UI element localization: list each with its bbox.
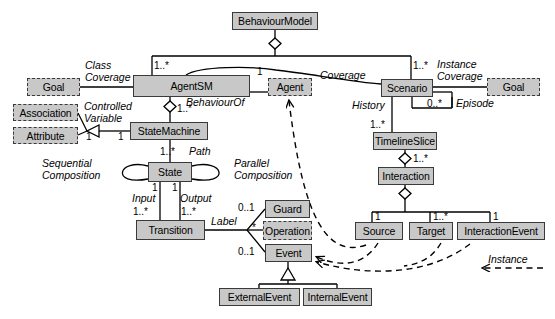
multiplicity-value: 1 — [257, 66, 263, 77]
multiplicity-value: 1..* — [160, 146, 175, 157]
class-box-timelineslice[interactable]: TimelineSlice — [373, 132, 437, 150]
class-label: InternalEvent — [308, 291, 368, 303]
edge-label-episode: Episode — [456, 98, 494, 110]
class-label: Source — [363, 225, 395, 237]
edge-label-line1: Parallel — [234, 158, 292, 170]
class-label: Operation — [265, 225, 310, 237]
multiplicity-statemachine-one: 1 — [118, 131, 124, 142]
class-box-behaviourmodel[interactable]: BehaviourModel — [232, 12, 318, 30]
edge-label-sequential-composition: Sequential Composition — [42, 158, 100, 181]
class-label: Goal — [43, 81, 65, 93]
edge-label-line1: Label — [211, 215, 237, 227]
class-box-transition[interactable]: Transition — [136, 220, 205, 240]
edge-label-line1: History — [352, 99, 385, 111]
class-box-source[interactable]: Source — [355, 222, 403, 240]
class-box-externalevent[interactable]: ExternalEvent — [219, 288, 300, 306]
class-box-interactionevent[interactable]: InteractionEvent — [457, 222, 545, 240]
multiplicity-guard: 0..1 — [238, 202, 255, 213]
class-label: Interaction — [382, 170, 429, 182]
edge-label-parallel-composition: Parallel Composition — [234, 158, 292, 181]
edge-label-label: Label — [211, 216, 237, 228]
class-label: TimelineSlice — [375, 135, 435, 147]
multiplicity-input: 1..* — [133, 206, 148, 217]
class-box-agent[interactable]: Agent — [268, 78, 312, 96]
class-label: Scenario — [387, 82, 427, 94]
edge-label-line1: Episode — [456, 97, 494, 109]
edge-label-path: Path — [189, 146, 211, 158]
class-box-scenario[interactable]: Scenario — [381, 79, 433, 97]
multiplicity-value: 1..* — [370, 119, 385, 130]
edge-label-output: Output — [180, 193, 212, 205]
edge-label-line1: Coverage — [320, 69, 366, 81]
multiplicity-value: 1..* — [413, 153, 428, 164]
multiplicity-value: 1..* — [433, 211, 448, 222]
multiplicity-state-input: 1 — [152, 182, 158, 193]
class-label: Transition — [148, 224, 192, 236]
edge-label-line1: Controlled — [84, 101, 132, 113]
class-label: Association — [19, 107, 71, 119]
legend-label-instance: Instance — [488, 254, 528, 266]
edge-label-behaviourof: BehaviourOf — [186, 97, 244, 109]
multiplicity-history: 1..* — [370, 119, 385, 130]
edge-label-line1: Class — [85, 60, 131, 72]
edge-label-line1: Sequential — [42, 158, 100, 170]
multiplicity-value: 1 — [375, 211, 381, 222]
multiplicity-association-one: 1 — [86, 131, 92, 142]
edge-label-controlled-variable: Controlled Variable — [84, 101, 132, 124]
class-label: Target — [417, 225, 445, 237]
multiplicity-value: 0..1 — [238, 246, 255, 257]
multiplicity-operation: * — [252, 222, 256, 233]
multiplicity-output: 1..* — [181, 206, 196, 217]
multiplicity-source: 1 — [375, 211, 381, 222]
edge-label-line1: Instance — [437, 59, 483, 71]
class-label: Goal — [503, 81, 525, 93]
class-box-statemachine[interactable]: StateMachine — [130, 122, 208, 140]
edge-label-line1: Input — [132, 192, 155, 204]
edge-label-line2: Composition — [234, 170, 292, 182]
multiplicity-value: 1 — [493, 211, 499, 222]
class-box-guard[interactable]: Guard — [265, 200, 310, 218]
legend-text: Instance — [488, 253, 528, 265]
class-box-association[interactable]: Association — [13, 104, 78, 121]
class-label: StateMachine — [138, 125, 200, 137]
class-box-goal-left[interactable]: Goal — [27, 78, 80, 96]
class-label: Agent — [277, 81, 304, 93]
class-box-event[interactable]: Event — [265, 244, 312, 262]
multiplicity-value: * — [252, 222, 256, 233]
multiplicity-state-output: 1 — [172, 182, 178, 193]
multiplicity-agent-left: 1 — [257, 66, 263, 77]
class-box-state[interactable]: State — [148, 162, 192, 182]
edge-label-class-coverage: Class Coverage — [85, 60, 131, 83]
class-box-attribute[interactable]: Attribute — [13, 127, 78, 144]
edge-label-line1: Path — [189, 145, 211, 157]
multiplicity-value: 1..* — [154, 60, 169, 71]
class-box-internalevent[interactable]: InternalEvent — [303, 288, 372, 306]
class-box-goal-right[interactable]: Goal — [487, 78, 540, 96]
class-label: Event — [275, 247, 301, 259]
class-label: AgentSM — [170, 80, 212, 92]
class-box-target[interactable]: Target — [409, 222, 453, 240]
multiplicity-value: 0..1 — [238, 202, 255, 213]
edge-label-line1: Output — [180, 192, 212, 204]
multiplicity-agentsm-statemachine: 1..* — [177, 103, 192, 114]
edge-label-line2: Coverage — [85, 72, 131, 84]
class-label: State — [158, 166, 182, 178]
class-label: BehaviourModel — [238, 15, 312, 27]
multiplicity-value: 1..* — [413, 60, 428, 71]
multiplicity-value: 1 — [172, 182, 178, 193]
multiplicity-value: 1..* — [177, 103, 192, 114]
multiplicity-target: 1..* — [433, 211, 448, 222]
class-label: ExternalEvent — [228, 291, 291, 303]
multiplicity-interactionevent: 1 — [493, 211, 499, 222]
edge-label-line2: Coverage — [437, 71, 483, 83]
class-box-interaction[interactable]: Interaction — [378, 167, 434, 185]
multiplicity-interaction: 1..* — [413, 153, 428, 164]
multiplicity-event: 0..1 — [238, 246, 255, 257]
multiplicity-value: 1 — [118, 131, 124, 142]
multiplicity-scenario-top: 1..* — [413, 60, 428, 71]
class-label: Attribute — [27, 130, 65, 142]
class-label: Guard — [273, 203, 301, 215]
class-box-agentsm[interactable]: AgentSM — [133, 75, 250, 97]
edge-label-history: History — [352, 100, 385, 112]
class-box-operation[interactable]: Operation — [263, 221, 312, 240]
